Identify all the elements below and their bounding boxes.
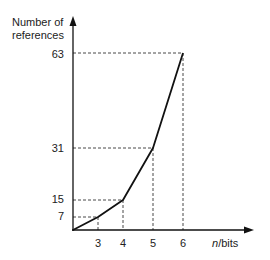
data-line — [73, 53, 183, 230]
y-tick-7: 7 — [34, 210, 64, 222]
y-axis-label: Number of references — [12, 16, 64, 42]
x-tick-4: 4 — [113, 237, 133, 249]
guide-lines — [73, 53, 183, 230]
y-tick-31: 31 — [34, 142, 64, 154]
y-axis-label-line-2: references — [12, 29, 64, 42]
x-axis-arrow-icon — [244, 227, 254, 234]
x-axis-label-unit: /bits — [218, 237, 238, 249]
x-tick-6: 6 — [173, 237, 193, 249]
axes — [70, 16, 255, 234]
y-axis-label-line-1: Number of — [12, 16, 64, 29]
x-tick-5: 5 — [143, 237, 163, 249]
x-axis-label: n/bits — [212, 237, 238, 249]
x-tick-3: 3 — [88, 237, 108, 249]
y-tick-15: 15 — [34, 193, 64, 205]
y-axis-arrow-icon — [70, 16, 77, 26]
y-tick-63: 63 — [34, 48, 64, 60]
